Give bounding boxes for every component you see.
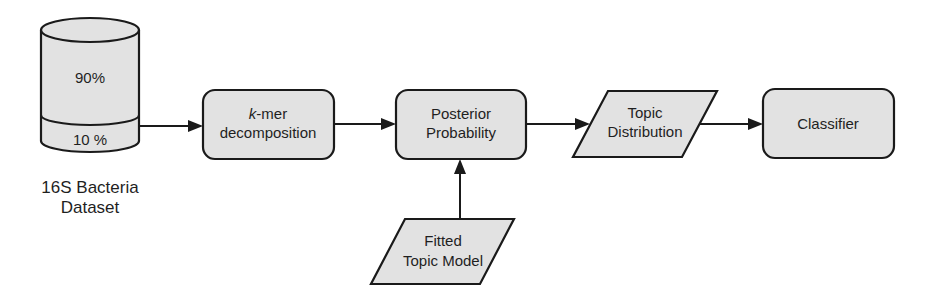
- arrowhead-icon: [381, 118, 396, 130]
- posterior-label-line1: Posterior: [431, 105, 491, 122]
- posterior-probability-node: Posterior Probability: [396, 90, 526, 159]
- pipeline-diagram: 90% 10 % 16S Bacteria Dataset k-mer deco…: [0, 0, 930, 302]
- fitted-topic-model-node: Fitted Topic Model: [371, 219, 514, 284]
- cylinder-top: [41, 18, 139, 42]
- topic-distribution-line1: Topic: [627, 104, 663, 121]
- fitted-model-line1: Fitted: [424, 232, 462, 249]
- edge-fitted-model-to-posterior: [454, 159, 466, 219]
- edge-posterior-to-topic-distribution: [526, 118, 590, 130]
- dataset-caption-line1: 16S Bacteria: [41, 178, 139, 197]
- fitted-model-line2: Topic Model: [403, 252, 483, 269]
- edge-kmer-to-posterior: [334, 118, 396, 130]
- kmer-label-line2: decomposition: [220, 124, 317, 141]
- edge-topic-distribution-to-classifier: [700, 118, 763, 130]
- dataset-test-label: 10 %: [73, 131, 107, 148]
- topic-distribution-line2: Distribution: [607, 123, 682, 140]
- kmer-label-line1: k-mer: [249, 105, 287, 122]
- classifier-node: Classifier: [763, 89, 894, 158]
- kmer-decomposition-node: k-mer decomposition: [203, 90, 334, 159]
- dataset-caption-line2: Dataset: [61, 198, 120, 217]
- classifier-label: Classifier: [797, 115, 859, 132]
- dataset-cylinder: 90% 10 %: [41, 18, 139, 152]
- arrowhead-icon: [188, 120, 203, 132]
- edge-dataset-to-kmer: [139, 120, 203, 132]
- kmer-mer: -mer: [256, 105, 287, 122]
- arrowhead-icon: [748, 118, 763, 130]
- dataset-train-label: 90%: [75, 69, 105, 86]
- topic-distribution-node: Topic Distribution: [573, 91, 717, 157]
- arrowhead-icon: [454, 159, 466, 174]
- posterior-label-line2: Probability: [426, 124, 497, 141]
